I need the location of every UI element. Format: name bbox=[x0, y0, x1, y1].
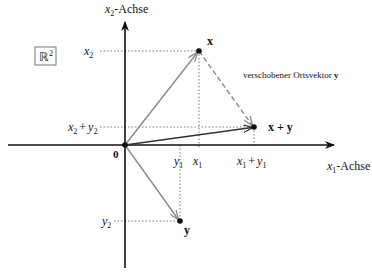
point-x bbox=[196, 48, 202, 54]
vector-x-plus-y bbox=[125, 128, 252, 146]
point-sum-label: x + y bbox=[268, 120, 293, 134]
space-label: ℝ bbox=[39, 50, 49, 64]
point-y-label: y bbox=[184, 223, 190, 237]
vector-y bbox=[125, 145, 178, 219]
point-x-plus-y bbox=[251, 124, 257, 130]
tick-y1: y1 bbox=[173, 154, 183, 170]
origin-point bbox=[122, 142, 128, 148]
tick-x2-plus-y2: x2+y2 bbox=[67, 120, 97, 136]
translated-vector-annotation: verschobener Ortsvektor y bbox=[243, 70, 339, 80]
point-y bbox=[177, 218, 183, 224]
space-label-box: ℝ2 bbox=[35, 47, 56, 65]
x1-axis-label: x1-Achse bbox=[326, 159, 370, 175]
tick-y2: y2 bbox=[101, 214, 111, 230]
x2-axis-label: x2-Achse bbox=[104, 2, 148, 18]
vector-x bbox=[125, 53, 197, 145]
dotted-guides bbox=[100, 51, 254, 221]
tick-x1: x1 bbox=[192, 154, 202, 170]
translated-vector-y bbox=[199, 51, 252, 125]
point-x-label: x bbox=[207, 34, 213, 48]
tick-x2: x2 bbox=[83, 44, 93, 60]
tick-x1-plus-y1: x1+y1 bbox=[236, 154, 266, 170]
origin-label: 0 bbox=[113, 148, 119, 160]
vector-addition-diagram: ℝ2 x2-Achse x1-Achse 0 x x + y y y1 x1 x… bbox=[0, 0, 372, 277]
space-exponent: 2 bbox=[49, 49, 53, 58]
